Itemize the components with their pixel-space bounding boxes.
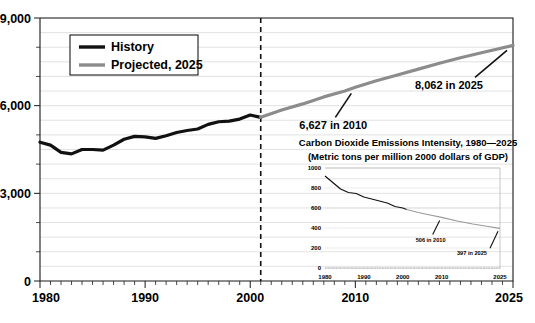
annotation-leader-2010: [335, 93, 351, 117]
figure-container: 03,0006,0009,000 19801990200020102025 6,…: [0, 0, 535, 323]
inset-x-tick-label: 2025: [493, 274, 507, 280]
inset-x-tick-label: 1990: [357, 274, 371, 280]
inset-chart: Carbon Dioxide Emissions Intensity, 1980…: [299, 137, 518, 280]
main-x-tick-label: 1980: [32, 291, 60, 305]
main-x-tick-label: 2010: [341, 291, 369, 305]
inset-line-history: [325, 176, 407, 210]
inset-x-tick-label: 2000: [396, 274, 410, 280]
main-x-axis-labels: 19801990200020102025: [32, 291, 523, 305]
inset-title: Carbon Dioxide Emissions Intensity, 1980…: [299, 137, 518, 148]
inset-y-tick-label: 800: [311, 185, 322, 191]
inset-y-tick-label: 400: [311, 225, 322, 231]
inset-line-projected: [407, 210, 500, 229]
inset-x-axis-labels: 19801990200020102025: [318, 274, 507, 280]
inset-y-axis-labels: 02004006008001000: [308, 165, 322, 271]
main-x-tick-label: 1990: [131, 291, 159, 305]
legend-label-history: History: [111, 40, 154, 54]
main-y-tick-label: 9,000: [0, 12, 31, 26]
series-line-history: [40, 115, 261, 154]
main-y-tick-label: 6,000: [0, 99, 31, 113]
inset-subtitle: (Metric tons per million 2000 dollars of…: [308, 151, 508, 162]
annotation-label-2010: 6,627 in 2010: [299, 119, 367, 131]
inset-series-group: [325, 176, 500, 228]
inset-y-tick-label: 1000: [308, 165, 322, 171]
inset-y-tick-label: 200: [311, 245, 322, 251]
main-y-tick-label: 0: [24, 275, 31, 289]
inset-annotation-label-2025: 397 in 2025: [457, 250, 487, 256]
inset-x-tick-label: 1980: [318, 274, 332, 280]
main-y-axis-labels: 03,0006,0009,000: [0, 12, 31, 289]
annotation-label-2025: 8,062 in 2025: [415, 79, 483, 91]
inset-y-tick-label: 600: [311, 205, 322, 211]
main-y-tick-label: 3,000: [0, 187, 31, 201]
legend-label-projected: Projected, 2025: [111, 58, 203, 72]
inset-annotation-label-2010: 506 in 2010: [416, 237, 446, 243]
main-x-tick-label: 2025: [495, 291, 523, 305]
inset-x-tick-label: 2010: [435, 274, 449, 280]
main-x-axis-ticks: [40, 281, 513, 288]
legend: History Projected, 2025: [70, 35, 203, 75]
inset-annotation-leader-2025: [490, 231, 498, 248]
main-y-axis-ticks: [34, 18, 40, 281]
chart-svg: 03,0006,0009,000 19801990200020102025 6,…: [0, 0, 535, 323]
main-x-tick-label: 2000: [236, 291, 264, 305]
